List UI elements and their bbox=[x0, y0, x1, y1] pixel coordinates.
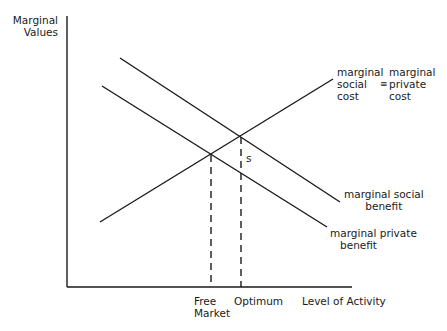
optimum-label: Optimum bbox=[234, 295, 283, 307]
marginal-social-cost-curve bbox=[100, 79, 333, 222]
x-axis-label: Level of Activity bbox=[302, 295, 386, 307]
equiv-symbol: ≡ bbox=[380, 78, 388, 90]
y-axis-label: Marginal Values bbox=[10, 14, 58, 38]
marginal-social-benefit-curve bbox=[120, 58, 340, 202]
msb-label: marginal social benefit bbox=[344, 188, 424, 212]
msc-label: marginal social cost bbox=[337, 66, 383, 102]
free-market-label: Free Market bbox=[194, 295, 230, 319]
mpb-label: marginal private benefit bbox=[330, 227, 417, 251]
marginal-private-benefit-curve bbox=[102, 86, 327, 227]
mpc-label: marginal private cost bbox=[389, 66, 435, 102]
subsidy-label: s bbox=[246, 152, 251, 164]
diagram-canvas bbox=[0, 0, 447, 331]
